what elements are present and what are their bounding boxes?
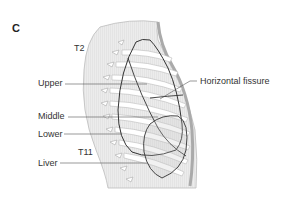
label-lower-lobe: Lower [38, 130, 63, 139]
label-middle-lobe: Middle [38, 112, 65, 121]
vertebra-label-t11: T11 [78, 148, 93, 157]
label-horizontal-fissure: Horizontal fissure [200, 77, 270, 86]
label-liver: Liver [38, 159, 58, 168]
vertebra-label-t2: T2 [74, 44, 85, 53]
thorax-diagram [0, 0, 285, 204]
label-upper-lobe: Upper [38, 79, 63, 88]
